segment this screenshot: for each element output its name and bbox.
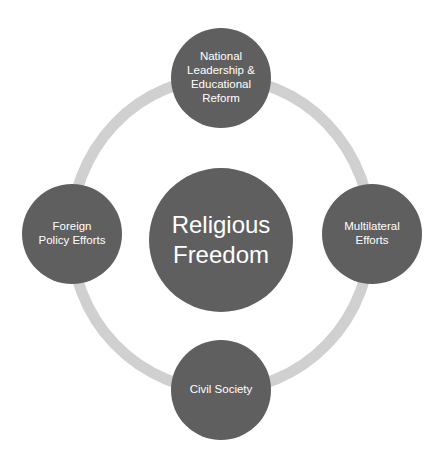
node-national-leadership: National Leadership & Educational Reform: [171, 28, 271, 128]
center-node-label: Religious Freedom: [172, 210, 271, 270]
node-label: Foreign Policy Efforts: [39, 220, 106, 248]
node-label: National Leadership & Educational Reform: [187, 50, 255, 105]
node-multilateral-efforts: Multilateral Efforts: [322, 184, 422, 284]
node-foreign-policy-efforts: Foreign Policy Efforts: [22, 184, 122, 284]
node-label: Multilateral Efforts: [344, 220, 400, 248]
node-label: Civil Society: [190, 383, 253, 397]
center-node-religious-freedom: Religious Freedom: [149, 168, 293, 312]
node-civil-society: Civil Society: [171, 340, 271, 440]
